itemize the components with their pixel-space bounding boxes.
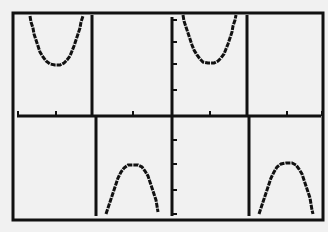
branch-down-2 [259,163,313,214]
branch-down-1 [106,165,158,214]
branch-up-1 [30,16,83,65]
branch-up-2 [183,15,236,63]
graph-screen [0,0,328,232]
function-plot [0,0,328,232]
axes [17,17,322,216]
